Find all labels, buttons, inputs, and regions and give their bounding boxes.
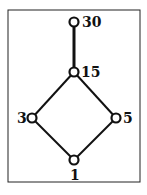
edge-3-15 (32, 72, 74, 118)
hasse-diagram: 30 15 3 5 1 (0, 0, 147, 195)
label-5: 5 (123, 110, 133, 126)
node-1 (70, 156, 79, 165)
edge-1-5 (74, 118, 116, 160)
node-30 (70, 18, 79, 27)
label-3: 3 (17, 110, 27, 126)
label-15: 15 (81, 64, 100, 80)
node-5 (112, 114, 121, 123)
edge-1-3 (32, 118, 74, 160)
node-15 (70, 68, 79, 77)
node-3 (28, 114, 37, 123)
label-1: 1 (70, 167, 80, 183)
label-30: 30 (82, 14, 102, 30)
